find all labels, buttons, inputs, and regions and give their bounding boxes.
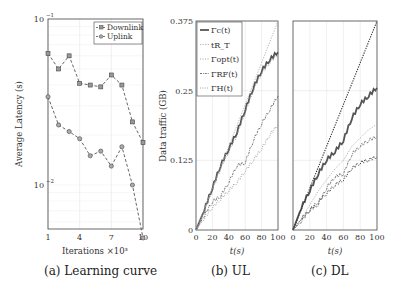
- marker-circle: [56, 123, 60, 127]
- marker-square: [57, 67, 61, 71]
- marker-square: [78, 81, 82, 85]
- marker-circle: [99, 149, 103, 153]
- marker-square: [130, 120, 134, 124]
- x-tick-label: 60: [338, 233, 348, 242]
- x-tick-label: 40: [224, 233, 234, 242]
- x-tick-label: 1: [45, 233, 50, 242]
- x-tick-label: 20: [207, 233, 217, 242]
- marker-circle: [109, 164, 113, 168]
- marker-square: [109, 73, 113, 77]
- marker-circle: [46, 95, 50, 99]
- x-tick-label: 4: [77, 233, 82, 242]
- legend-label: Γopt(t): [211, 55, 239, 64]
- x-tick-label: 100: [369, 233, 384, 242]
- series-line: [196, 96, 278, 230]
- legend-label-uplink: Uplink: [107, 32, 133, 41]
- y-axis-label: Data traffic (GB): [158, 90, 168, 162]
- legend-label: ΓH(t): [211, 84, 233, 93]
- x-tick-label: 0: [290, 233, 295, 242]
- x-tick-label: 60: [240, 233, 250, 242]
- marker-circle: [141, 236, 145, 240]
- y-tick-label: 0.375: [170, 17, 193, 26]
- legend-marker-square: [100, 26, 104, 30]
- marker-square: [46, 51, 50, 55]
- legend-label-downlink: Downlink: [107, 23, 143, 32]
- marker-square: [88, 83, 92, 87]
- caption-ul: (b) UL: [211, 264, 250, 278]
- y-tick-label: 0.25: [175, 87, 193, 96]
- x-tick-label: 100: [270, 233, 285, 242]
- y-tick-label: 0.125: [170, 156, 193, 165]
- series-line: [293, 156, 377, 230]
- y-tick-label: 10: [34, 15, 44, 24]
- x-tick-label: 20: [305, 233, 315, 242]
- y-tick-label: 0: [188, 226, 193, 235]
- y-axis-label: Average Latency (s): [14, 81, 24, 168]
- marker-square: [141, 141, 145, 145]
- y-tick-label: 10: [34, 181, 44, 190]
- x-tick-label: 40: [322, 233, 332, 242]
- figure-canvas: 1471010−110−2Average Latency (s)Iteratio…: [0, 0, 395, 289]
- x-tick-label: 7: [109, 233, 114, 242]
- legend-marker-circle: [99, 35, 103, 39]
- marker-circle: [130, 183, 134, 187]
- x-tick-label: 80: [355, 233, 365, 242]
- y-tick-exp: −2: [46, 178, 54, 184]
- marker-circle: [120, 145, 124, 149]
- series-line: [196, 125, 278, 230]
- legend-label: Γc(t): [211, 26, 231, 35]
- legend-label: tR_T: [211, 41, 230, 50]
- series-line: [293, 21, 377, 230]
- x-axis-label: Iterations ×10³: [62, 246, 128, 256]
- marker-circle: [78, 137, 82, 141]
- caption-learning-curve: (a) Learning curve: [44, 264, 157, 278]
- series-line: [293, 88, 377, 230]
- axes-frame-a: [48, 19, 143, 229]
- marker-square: [67, 54, 71, 58]
- marker-circle: [88, 154, 92, 158]
- x-axis-label: t(s): [230, 246, 244, 256]
- marker-square: [120, 83, 124, 87]
- x-tick-label: 80: [257, 233, 267, 242]
- legend-label: ΓRF(t): [211, 70, 238, 79]
- x-axis-label: t(s): [328, 246, 342, 256]
- series-line-uplink: [48, 97, 143, 238]
- series-line-downlink: [48, 53, 143, 142]
- caption-dl: (c) DL: [311, 264, 349, 278]
- marker-square: [99, 85, 103, 89]
- x-tick-label: 0: [193, 233, 198, 242]
- y-tick-exp: −1: [46, 12, 54, 18]
- marker-circle: [67, 129, 71, 133]
